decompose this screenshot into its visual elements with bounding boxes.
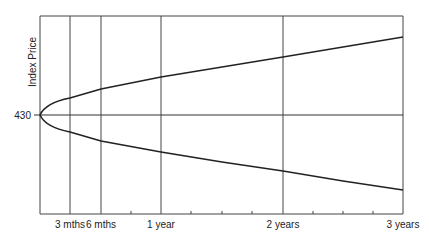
lower-bound-curve — [40, 115, 403, 190]
x-tick-label: 1 year — [147, 219, 175, 230]
x-tick-label: 3 years — [387, 219, 420, 230]
x-tick-label: 2 years — [267, 219, 300, 230]
y-tick-label: 430 — [14, 110, 31, 121]
y-axis-title: Index Price — [27, 37, 38, 87]
upper-bound-curve — [40, 37, 403, 115]
x-tick-label: 3 mths — [55, 219, 85, 230]
x-tick-label: 6 mths — [86, 219, 116, 230]
price-cone-chart: Index Price 430 3 mths 6 mths 1 year 2 y… — [0, 0, 429, 241]
